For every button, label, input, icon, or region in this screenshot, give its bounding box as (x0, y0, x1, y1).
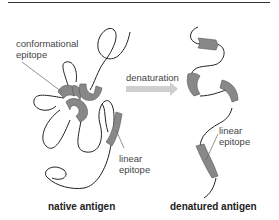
denatured-epitope-segments (187, 38, 238, 102)
conformational-epitope-label: conformationalepitope (16, 38, 78, 60)
denatured-linear-epitope (196, 144, 218, 178)
native-linear-leader-line (116, 130, 124, 148)
antigen-denaturation-diagram: conformationalepitope linearepitope dena… (0, 0, 279, 220)
conformational-leader-line (22, 62, 62, 92)
denatured-linear-leader-line (206, 134, 218, 160)
conformational-epitope-segments (58, 84, 102, 122)
denaturation-label: denaturation (126, 72, 179, 83)
denatured-linear-epitope-label: linearepitope (219, 125, 250, 147)
denatured-antigen-caption: denatured antigen (170, 201, 257, 212)
diagram-graphic (0, 0, 279, 220)
native-antigen-caption: native antigen (48, 201, 115, 212)
denaturation-arrow (126, 82, 178, 96)
native-linear-epitope-label: linearepitope (119, 153, 150, 175)
